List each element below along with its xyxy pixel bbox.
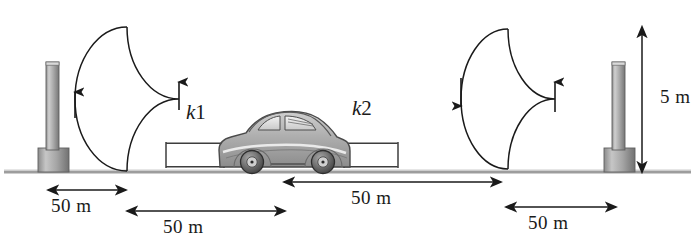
dimension-label-1: 50 m — [51, 195, 92, 217]
spring-label-k1-index: 1 — [195, 100, 206, 124]
dimension-label-2: 50 m — [163, 216, 204, 238]
right-post — [604, 62, 635, 172]
physics-diagram: k1 k2 50 m 50 m 50 m 50 m 5 m — [0, 0, 695, 248]
car — [219, 112, 350, 174]
spring-label-k1: k1 — [186, 100, 206, 125]
spring-label-k2-index: 2 — [361, 96, 372, 120]
car-wheel-rear — [241, 151, 264, 174]
dimension-label-height: 5 m — [660, 86, 691, 108]
diagram-canvas — [0, 0, 695, 248]
left-loop — [75, 27, 179, 171]
dimension-label-4: 50 m — [528, 212, 569, 234]
left-post — [38, 62, 69, 172]
spring-k2 — [344, 142, 398, 168]
spring-k1 — [166, 142, 224, 168]
right-loop — [461, 29, 555, 169]
dimension-label-3: 50 m — [351, 187, 392, 209]
car-wheel-front — [312, 151, 335, 174]
ground-line — [4, 170, 691, 172]
spring-label-k1-letter: k — [186, 100, 195, 124]
spring-label-k2-letter: k — [352, 96, 361, 120]
spring-label-k2: k2 — [352, 96, 372, 121]
